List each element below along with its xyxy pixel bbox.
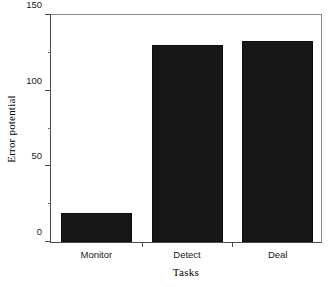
x-axis-tick [142,242,143,247]
y-axis-tick [45,241,51,242]
bar [242,41,313,242]
bar [152,45,223,242]
y-axis-tick [45,165,51,166]
bar [61,213,132,242]
y-axis-tick-label: 100 [26,74,42,85]
y-axis-tick [45,90,51,91]
y-axis-tick [45,14,51,15]
x-axis-tick [232,242,233,247]
plot-area: 050100150 MonitorDetectDeal [50,14,322,243]
y-axis-minor-tick [48,128,52,129]
x-axis-title: Tasks [50,266,322,278]
y-axis-minor-tick [48,52,52,53]
bar-chart: Error potential 050100150 MonitorDetectD… [0,0,336,287]
y-axis-minor-tick [48,203,52,204]
y-axis-title: Error potential [4,14,18,243]
y-axis-tick-label: 0 [37,226,42,237]
x-axis-tick-label: Deal [268,249,288,260]
y-axis-tick-label: 50 [31,150,42,161]
y-axis-tick-label: 150 [26,0,42,10]
y-axis-title-label: Error potential [5,95,17,162]
x-axis-tick-label: Detect [173,249,200,260]
x-axis-tick-label: Monitor [80,249,112,260]
